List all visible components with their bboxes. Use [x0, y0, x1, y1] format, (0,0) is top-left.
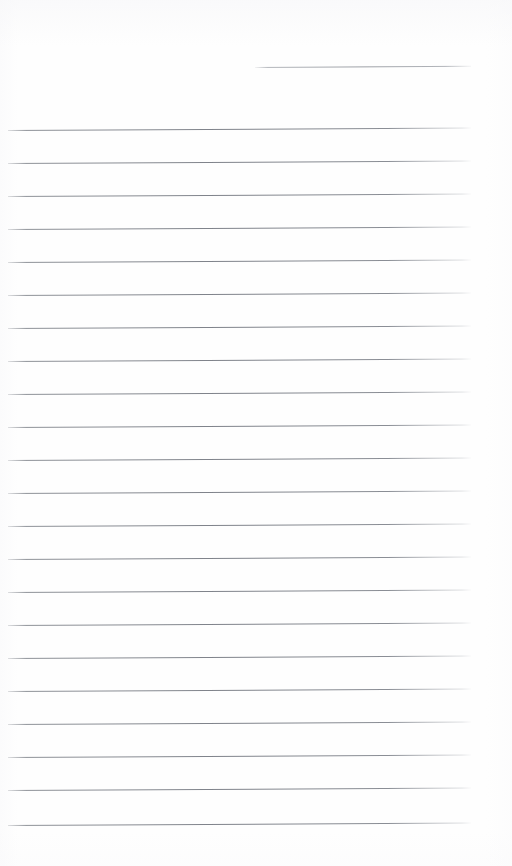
ruling-line	[8, 656, 471, 659]
ruling-line	[8, 491, 471, 494]
ruling-line	[8, 359, 471, 362]
ruling-line	[8, 689, 471, 692]
ruling-line	[8, 524, 471, 527]
ruling-line	[8, 823, 471, 826]
ruling-line	[8, 755, 471, 758]
ruling-line	[8, 557, 471, 560]
notebook-page	[0, 0, 512, 866]
ruling-line	[8, 260, 471, 263]
ruling-line	[8, 722, 471, 725]
ruling-line	[8, 590, 471, 593]
ruling-line	[8, 788, 471, 791]
ruling-line	[8, 161, 471, 164]
ruling-line-partial	[255, 66, 471, 68]
ruling-line	[8, 227, 471, 230]
ruling-line	[8, 392, 471, 395]
ruling-line	[8, 326, 471, 329]
ruling-line	[8, 458, 471, 461]
ruling-line	[8, 425, 471, 428]
ruling-line	[8, 128, 471, 131]
ruling-line	[8, 623, 471, 626]
ruling-lines-layer	[0, 0, 512, 866]
ruling-line	[8, 293, 471, 296]
ruling-line	[8, 194, 471, 197]
